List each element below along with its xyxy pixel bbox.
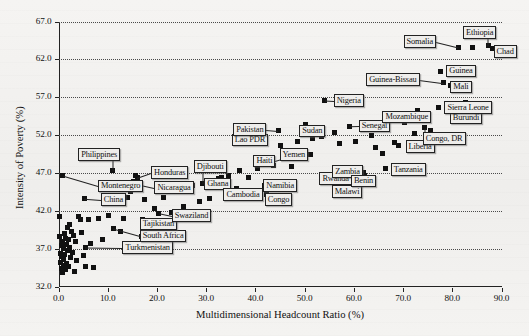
data-point-unlabeled[interactable] — [96, 216, 101, 221]
point-label-nigeria: Nigeria — [334, 94, 364, 107]
data-point-unlabeled[interactable] — [62, 252, 67, 257]
y-tick-mark — [55, 59, 59, 60]
data-point[interactable] — [383, 166, 388, 171]
data-point-unlabeled[interactable] — [91, 265, 96, 270]
data-point-unlabeled[interactable] — [380, 151, 385, 156]
x-tick-label: 20.0 — [137, 293, 177, 303]
x-axis-title: Multidimensional Headcount Ratio (%) — [59, 309, 502, 320]
point-label-honduras: Honduras — [151, 166, 188, 179]
data-point-unlabeled[interactable] — [100, 237, 105, 242]
data-point-unlabeled[interactable] — [470, 45, 475, 50]
data-point-unlabeled[interactable] — [78, 217, 83, 222]
data-point-unlabeled[interactable] — [373, 145, 378, 150]
data-point-unlabeled[interactable] — [106, 213, 111, 218]
label-leader-line — [324, 100, 333, 101]
y-tick-label: 32.0 — [19, 281, 52, 291]
y-axis-title: Intensity of Poverty (%) — [14, 106, 25, 209]
x-tick-mark — [502, 288, 503, 292]
data-point-unlabeled[interactable] — [337, 141, 342, 146]
point-label-somalia: Somalia — [404, 35, 436, 48]
data-point-unlabeled[interactable] — [79, 230, 84, 235]
data-point-unlabeled[interactable] — [181, 204, 186, 209]
y-tick-mark — [55, 211, 59, 212]
point-label-turkmenistan: Turkmenistan — [122, 241, 172, 254]
data-point[interactable] — [438, 69, 443, 74]
point-label-benin: Benin — [351, 175, 376, 188]
y-tick-label: 57.0 — [19, 91, 52, 101]
data-point-unlabeled[interactable] — [197, 199, 202, 204]
data-point-unlabeled[interactable] — [207, 196, 212, 201]
y-tick-label: 62.0 — [19, 53, 52, 63]
point-label-congo: Congo — [265, 193, 293, 206]
data-point-unlabeled[interactable] — [74, 258, 79, 263]
data-point-unlabeled[interactable] — [73, 239, 78, 244]
point-label-south-africa: South Africa — [140, 230, 187, 243]
label-leader-line — [86, 247, 123, 248]
gridline — [59, 173, 502, 174]
y-tick-mark — [55, 22, 59, 23]
y-tick-mark — [55, 249, 59, 250]
data-point-unlabeled[interactable] — [353, 139, 358, 144]
data-point-unlabeled[interactable] — [412, 131, 417, 136]
x-tick-mark — [206, 288, 207, 292]
data-point-unlabeled[interactable] — [86, 217, 91, 222]
point-label-nicaragua: Nicaragua — [154, 181, 193, 194]
point-label-guinea: Guinea — [446, 65, 475, 78]
data-point-unlabeled[interactable] — [289, 164, 294, 169]
x-tick-mark — [59, 288, 60, 292]
data-point-unlabeled[interactable] — [237, 168, 242, 173]
point-label-sudan: Sudan — [299, 125, 325, 138]
x-tick-label: 60.0 — [334, 293, 374, 303]
gridline — [59, 22, 502, 23]
gridline — [59, 97, 502, 98]
x-tick-mark — [403, 288, 404, 292]
data-point-unlabeled[interactable] — [57, 214, 62, 219]
point-label-montenegro: Montenegro — [98, 180, 143, 193]
data-point-unlabeled[interactable] — [369, 133, 374, 138]
gridline — [59, 211, 502, 212]
y-tick-label: 67.0 — [19, 16, 52, 26]
x-tick-label: 30.0 — [186, 293, 226, 303]
point-label-mozambique: Mozambique — [382, 111, 431, 124]
point-label-mali: Mali — [450, 81, 471, 94]
data-point[interactable] — [436, 105, 441, 110]
data-point-unlabeled[interactable] — [246, 175, 251, 180]
data-point-unlabeled[interactable] — [66, 264, 71, 269]
x-tick-label: 10.0 — [88, 293, 128, 303]
x-tick-mark — [354, 288, 355, 292]
x-tick-mark — [255, 288, 256, 292]
data-point-unlabeled[interactable] — [295, 139, 300, 144]
data-point-unlabeled[interactable] — [121, 216, 126, 221]
point-label-sierra-leone: Sierra Leone — [444, 101, 491, 114]
point-label-haiti: Haiti — [253, 155, 275, 168]
x-tick-mark — [452, 288, 453, 292]
data-point-unlabeled[interactable] — [161, 195, 166, 200]
x-tick-mark — [108, 288, 109, 292]
data-point-unlabeled[interactable] — [88, 241, 93, 246]
data-point-unlabeled[interactable] — [81, 253, 86, 258]
point-label-pakistan: Pakistan — [233, 123, 266, 136]
x-tick-mark — [157, 288, 158, 292]
data-point-unlabeled[interactable] — [396, 143, 401, 148]
data-point-unlabeled[interactable] — [142, 197, 147, 202]
point-label-swaziland: Swaziland — [172, 209, 212, 222]
data-point[interactable] — [308, 152, 313, 157]
data-point-unlabeled[interactable] — [71, 233, 76, 238]
x-tick-label: 0.0 — [39, 293, 79, 303]
point-label-philippines: Philippines — [78, 148, 120, 161]
x-tick-label: 90.0 — [482, 293, 522, 303]
data-point-unlabeled[interactable] — [332, 130, 337, 135]
data-point-unlabeled[interactable] — [66, 237, 71, 242]
y-tick-mark — [55, 173, 59, 174]
x-tick-mark — [305, 288, 306, 292]
point-label-djibouti: Djibouti — [194, 160, 227, 173]
data-point-unlabeled[interactable] — [68, 255, 73, 260]
data-point-unlabeled[interactable] — [67, 245, 72, 250]
x-tick-label: 40.0 — [235, 293, 275, 303]
data-point-unlabeled[interactable] — [70, 250, 75, 255]
data-point-unlabeled[interactable] — [83, 264, 88, 269]
data-point-unlabeled[interactable] — [67, 222, 72, 227]
x-tick-label: 50.0 — [285, 293, 325, 303]
data-point-unlabeled[interactable] — [72, 269, 77, 274]
point-label-namibia: Namibia — [263, 179, 297, 192]
